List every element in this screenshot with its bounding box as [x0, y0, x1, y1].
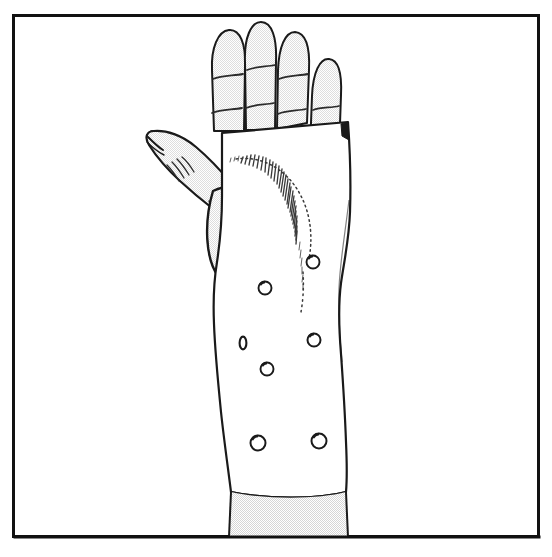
vent-hole-6 [251, 436, 266, 451]
vent-hole-4 [308, 334, 321, 347]
vent-hole-1 [307, 256, 320, 269]
forearm [229, 492, 348, 537]
vent-hole-2 [259, 282, 272, 295]
vent-hole-5 [261, 363, 274, 376]
index-finger [212, 30, 245, 131]
wrist-splint-illustration: Hand wearing a volar wrist splint (ortho… [0, 0, 552, 557]
illustration-canvas: Hand wearing a volar wrist splint (ortho… [0, 0, 552, 557]
vent-hole-7 [312, 434, 327, 449]
splint-shell [214, 122, 351, 498]
ring-finger [277, 32, 309, 129]
vent-hole-3 [240, 337, 247, 350]
middle-finger [245, 22, 276, 130]
forearm-fill [229, 492, 348, 537]
wrist-splint [214, 122, 351, 498]
